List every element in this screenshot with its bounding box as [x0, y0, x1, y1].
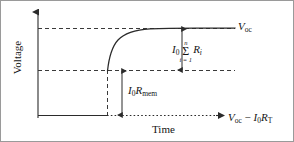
vocirt-r-subscript: T: [268, 116, 273, 125]
summation-icon: nΣi = 1: [179, 40, 192, 63]
voc-level-label: Voc: [238, 21, 252, 32]
voltage-time-figure: Voltage Time Voc Voc − I0RT I0nΣi = 1Ri …: [0, 0, 294, 142]
sum-r-subscript: i: [200, 48, 202, 57]
vocirt-r-symbol: R: [261, 111, 268, 123]
vocirt-i-subscript: 0: [257, 116, 261, 125]
y-axis-label: Voltage: [12, 30, 23, 86]
vocirt-v-subscript: oc: [235, 116, 242, 125]
voc-symbol: V: [238, 20, 245, 32]
vocirt-v-symbol: V: [228, 111, 235, 123]
voc-minus-irt-label: Voc − I0RT: [228, 112, 272, 123]
x-axis-label: Time: [152, 124, 175, 135]
sum-drop-label: I0nΣi = 1Ri: [172, 39, 202, 62]
mem-i-subscript: 0: [132, 89, 136, 98]
sum-r-symbol: R: [193, 43, 200, 55]
summation-lower-limit: i = 1: [179, 57, 192, 63]
mem-drop-label: I0Rmem: [128, 85, 157, 96]
mem-r-subscript: mem: [142, 89, 157, 98]
vocirt-operator: −: [245, 111, 251, 123]
voc-subscript: oc: [245, 25, 252, 34]
